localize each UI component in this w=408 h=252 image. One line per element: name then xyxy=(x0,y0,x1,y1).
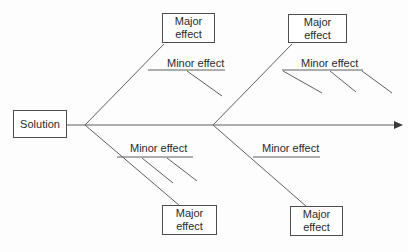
spine-arrowhead-icon xyxy=(394,121,403,129)
major-effect-box-lower-left: Major effect xyxy=(162,205,217,235)
minor-effect-label-upper-right: Minor effect xyxy=(301,58,358,69)
bone-lower-left-line xyxy=(85,125,180,206)
bone-upper-right-line xyxy=(213,44,292,125)
sub-branch-upper-right-1 xyxy=(283,71,322,93)
sub-branch-upper-right-3 xyxy=(362,71,392,93)
minor-effect-label-upper-left: Minor effect xyxy=(167,58,224,69)
major-effect-label-upper-right: Major effect xyxy=(289,16,346,42)
major-effect-box-upper-right: Major effect xyxy=(288,14,347,43)
major-effect-label-lower-right: Major effect xyxy=(291,208,342,234)
solution-label: Solution xyxy=(20,118,60,131)
sub-branch-lower-left-2 xyxy=(167,158,197,181)
sub-branch-lower-left-1 xyxy=(142,158,173,183)
major-effect-label-lower-left: Major effect xyxy=(163,207,216,233)
sub-branch-upper-left-1 xyxy=(187,71,222,96)
fishbone-diagram: Solution Major effect Major effect Major… xyxy=(0,0,408,252)
minor-effect-label-lower-left: Minor effect xyxy=(130,143,187,154)
sub-branch-upper-right-2 xyxy=(330,71,356,92)
minor-effect-label-lower-right: Minor effect xyxy=(262,143,319,154)
bone-upper-left-line xyxy=(85,44,164,125)
major-effect-box-lower-right: Major effect xyxy=(290,206,343,236)
major-effect-label-upper-left: Major effect xyxy=(163,15,214,41)
bone-lower-right-line xyxy=(213,125,307,207)
major-effect-box-upper-left: Major effect xyxy=(162,13,215,43)
solution-box: Solution xyxy=(13,110,67,138)
